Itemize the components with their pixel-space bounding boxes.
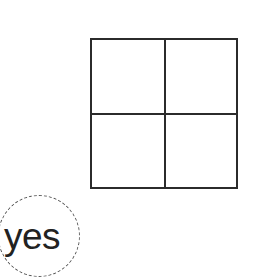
grid-horizontal-divider [92,113,236,115]
grid-cell-top-right [166,40,236,113]
yes-label: yes [4,218,60,255]
two-by-two-grid [90,38,238,189]
grid-cell-bottom-left [92,115,164,187]
grid-cell-bottom-right [166,115,236,187]
grid-cell-top-left [92,40,164,113]
